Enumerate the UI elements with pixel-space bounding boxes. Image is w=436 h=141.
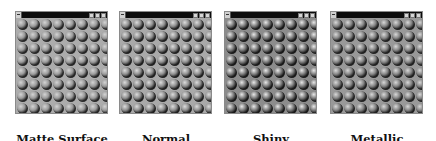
window-normal[interactable] bbox=[119, 11, 212, 114]
maximize-icon[interactable] bbox=[304, 13, 309, 18]
panel-label: Normal bbox=[119, 132, 213, 141]
maximize-icon[interactable] bbox=[95, 13, 100, 18]
maximize-icon[interactable] bbox=[410, 13, 415, 18]
maximize-icon[interactable] bbox=[199, 13, 204, 18]
sphere-grid bbox=[332, 18, 423, 114]
minimize-icon[interactable] bbox=[193, 13, 198, 18]
panel-label: Shiny bbox=[224, 132, 318, 141]
panel-normal: Normal bbox=[119, 11, 213, 114]
panel-matte: Matte Surface bbox=[15, 11, 109, 114]
panel-label: Metallic bbox=[330, 132, 424, 141]
window-metallic[interactable] bbox=[330, 11, 423, 114]
window-matte[interactable] bbox=[15, 11, 108, 114]
close-icon[interactable] bbox=[310, 13, 315, 18]
minimize-icon[interactable] bbox=[404, 13, 409, 18]
sphere-grid bbox=[226, 18, 317, 114]
window-shiny[interactable] bbox=[224, 11, 317, 114]
close-icon[interactable] bbox=[416, 13, 421, 18]
panel-label: Matte Surface bbox=[15, 132, 109, 141]
panel-shiny: Shiny bbox=[224, 11, 318, 114]
minimize-icon[interactable] bbox=[89, 13, 94, 18]
close-icon[interactable] bbox=[101, 13, 106, 18]
sphere-grid bbox=[121, 18, 212, 114]
sphere-grid bbox=[17, 18, 108, 114]
panel-metallic: Metallic bbox=[330, 11, 424, 114]
close-icon[interactable] bbox=[205, 13, 210, 18]
minimize-icon[interactable] bbox=[298, 13, 303, 18]
